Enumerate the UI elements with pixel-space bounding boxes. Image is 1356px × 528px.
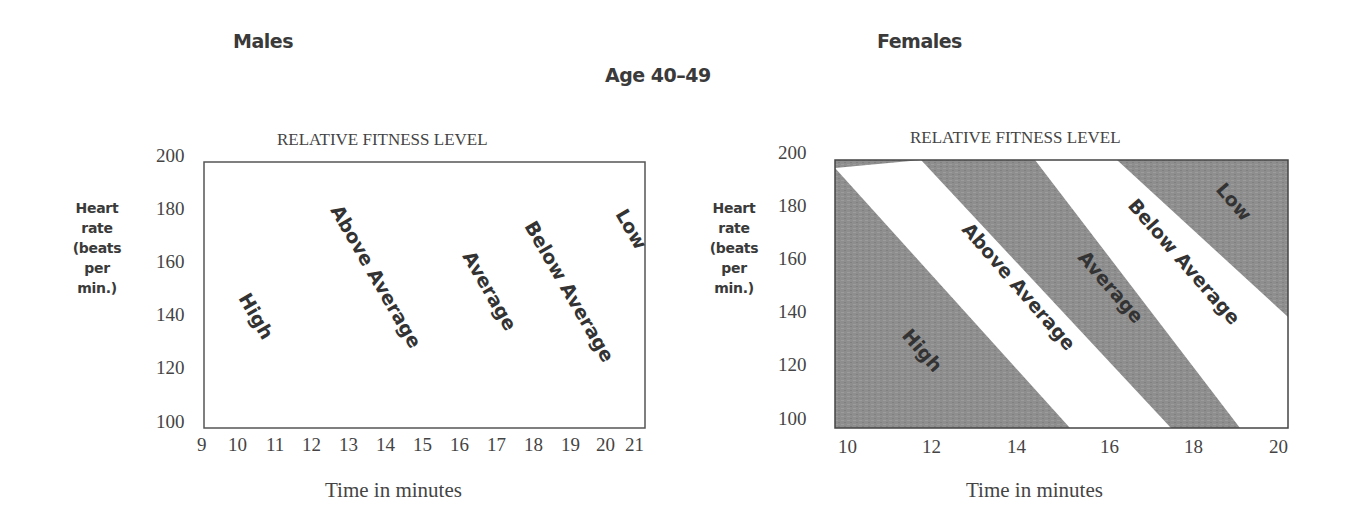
x-tick: 10	[228, 434, 247, 456]
males-chart: RELATIVE FITNESS LEVEL Heart rate (beats…	[0, 0, 680, 528]
y-tick: 100	[156, 411, 185, 433]
females-x-axis-label: Time in minutes	[966, 478, 1103, 503]
x-tick: 15	[413, 434, 432, 456]
x-tick: 19	[561, 434, 580, 456]
ylabel-line: min.)	[62, 278, 132, 298]
ylabel-line: Heart	[698, 198, 770, 218]
x-tick: 14	[376, 434, 395, 456]
x-tick: 18	[1184, 436, 1203, 458]
ylabel-line: rate	[62, 218, 132, 238]
females-plot-area: High Above Average Average Below Average…	[832, 157, 1292, 433]
x-tick: 20	[596, 434, 615, 456]
y-tick: 140	[156, 304, 185, 326]
females-chart-title: RELATIVE FITNESS LEVEL	[910, 128, 1121, 148]
ylabel-line: (beats	[698, 238, 770, 258]
ylabel-line: rate	[698, 218, 770, 238]
males-x-axis-label: Time in minutes	[325, 478, 462, 503]
x-tick: 17	[487, 434, 506, 456]
y-tick: 200	[778, 142, 807, 164]
x-tick: 12	[302, 434, 321, 456]
males-y-axis-label: Heart rate (beats per min.)	[62, 198, 132, 298]
y-tick: 100	[778, 408, 807, 430]
x-tick: 14	[1007, 436, 1026, 458]
x-tick: 10	[838, 436, 857, 458]
y-tick: 120	[778, 354, 807, 376]
y-tick: 120	[156, 357, 185, 379]
y-tick: 160	[156, 251, 185, 273]
y-tick: 160	[778, 248, 807, 270]
ylabel-line: (beats	[62, 238, 132, 258]
y-tick: 140	[778, 301, 807, 323]
x-tick: 12	[922, 436, 941, 458]
females-y-axis-label: Heart rate (beats per min.)	[698, 198, 770, 298]
x-tick: 20	[1269, 436, 1288, 458]
x-tick: 18	[524, 434, 543, 456]
males-chart-title: RELATIVE FITNESS LEVEL	[277, 130, 488, 150]
x-tick: 9	[197, 434, 207, 456]
x-tick: 16	[450, 434, 469, 456]
males-plot-area: High Above Average Average Below Average…	[200, 158, 650, 432]
y-tick: 180	[156, 198, 185, 220]
y-tick: 180	[778, 195, 807, 217]
x-tick: 21	[625, 434, 644, 456]
females-chart: RELATIVE FITNESS LEVEL Heart rate (beats…	[680, 0, 1356, 528]
ylabel-line: min.)	[698, 278, 770, 298]
ylabel-line: Heart	[62, 198, 132, 218]
x-tick: 16	[1100, 436, 1119, 458]
y-tick: 200	[156, 145, 185, 167]
x-tick: 11	[266, 434, 284, 456]
x-tick: 13	[339, 434, 358, 456]
ylabel-line: per	[62, 258, 132, 278]
ylabel-line: per	[698, 258, 770, 278]
